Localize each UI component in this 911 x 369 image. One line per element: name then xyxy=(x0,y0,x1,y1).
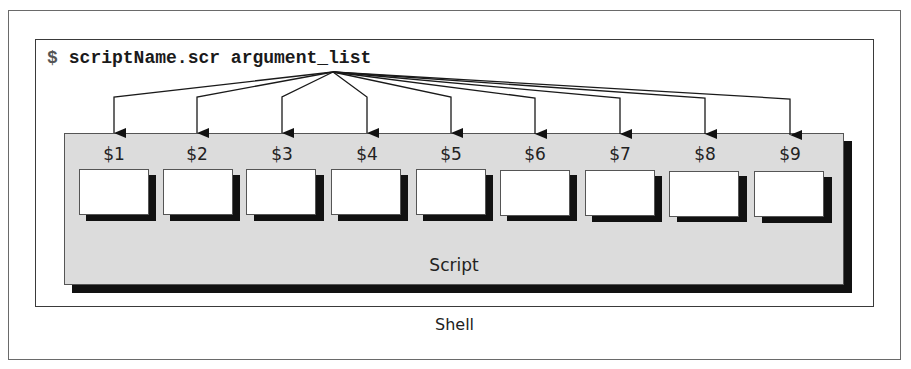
arrow-3 xyxy=(282,72,333,133)
arrow-4 xyxy=(333,72,367,133)
arrow-1 xyxy=(114,72,333,133)
arrow-2 xyxy=(197,72,333,133)
arrow-8 xyxy=(333,72,705,134)
argument-arrows xyxy=(0,0,911,369)
